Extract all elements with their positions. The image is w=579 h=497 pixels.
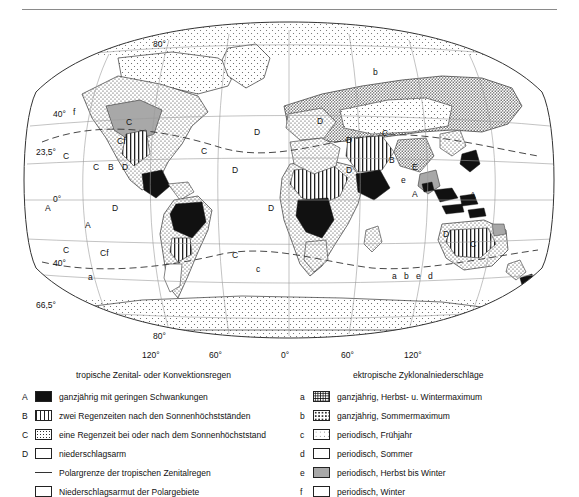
zone-letter: A xyxy=(85,220,91,230)
legend-swatch-solid-black xyxy=(35,391,52,402)
caption-right: ektropische Zyklonalniederschläge xyxy=(353,370,483,380)
legend-item-polar-dry: Niederschlagsarmut der Polargebiete xyxy=(22,486,199,497)
legend-key-letter: b xyxy=(300,411,313,421)
legend-label: periodisch, Frühjahr xyxy=(337,430,412,440)
zone-letter: b xyxy=(404,271,409,281)
zone-letter: B xyxy=(389,155,395,165)
map-svg xyxy=(22,14,557,344)
legend-swatch-fine-dots xyxy=(35,429,52,440)
legend-swatch-blank2 xyxy=(313,448,330,459)
zone-letter: D xyxy=(346,165,352,175)
legend-key-letter: e xyxy=(300,468,313,478)
legend-swatch-vertical-lines xyxy=(35,410,52,421)
zone-letter: A xyxy=(412,189,418,199)
zone-letter: C xyxy=(63,245,69,255)
legend-label: niederschlagsarm xyxy=(59,449,126,459)
graticule-label: 80° xyxy=(153,331,166,341)
zone-letter: D xyxy=(254,127,260,137)
legend-label: periodisch, Herbst bis Winter xyxy=(337,468,446,478)
legend-label: periodisch, Winter xyxy=(337,487,405,497)
zone-letter: a xyxy=(392,271,397,281)
zone-letter: a xyxy=(88,272,93,282)
graticule-label: 80° xyxy=(153,39,166,49)
legend-key-letter: a xyxy=(300,392,313,402)
zone-letter: B xyxy=(108,162,114,172)
legend-item-c2: c periodisch, Frühjahr xyxy=(300,429,412,440)
legend-item-a: A ganzjährig mit geringen Schwankungen xyxy=(22,391,208,402)
zone-letter: C xyxy=(63,151,69,161)
zone-letter: D xyxy=(346,135,352,145)
zone-letter: Cf xyxy=(117,136,126,146)
legend-item-polar-boundary: Polargrenze der tropischen Zenitalregen xyxy=(22,467,211,478)
legend-item-d: D niederschlagsarm xyxy=(22,448,126,459)
graticule-label: 60° xyxy=(341,350,354,360)
graticule-label: 0° xyxy=(53,194,61,204)
graticule-label: 66,5° xyxy=(36,300,56,310)
legend-item-a2: a ganzjährig, Herbst- u. Wintermaximum xyxy=(300,391,482,402)
legend-key-letter: D xyxy=(22,449,35,459)
graticule-label: 40° xyxy=(53,109,66,119)
legend-swatch-light-dots xyxy=(313,429,330,440)
legend-label: periodisch, Sommer xyxy=(337,449,413,459)
legend-swatch-dashed-line xyxy=(35,467,52,478)
graticule-label: 0° xyxy=(281,350,289,360)
zone-letter: D xyxy=(443,229,449,239)
legend-item-d2: d periodisch, Sommer xyxy=(300,448,413,459)
zone-letter: e xyxy=(416,271,421,281)
legend-key-letter: c xyxy=(300,430,313,440)
zone-letter: D xyxy=(317,116,323,126)
legend-item-f2: f periodisch, Winter xyxy=(300,486,405,497)
zone-letter: b xyxy=(373,67,378,77)
legend-key-letter: d xyxy=(300,449,313,459)
legend-key-letter: B xyxy=(22,411,35,421)
graticule-label: 40° xyxy=(53,258,66,268)
legend-label: ganzjährig, Sommermaximum xyxy=(337,411,450,421)
zone-letter: C xyxy=(93,162,99,172)
zone-letter: f xyxy=(73,107,75,117)
legend-label: eine Regenzeit bei oder nach dem Sonnenh… xyxy=(59,430,266,440)
legend-swatch-dense-black-dots xyxy=(313,391,330,402)
zone-letter: A xyxy=(45,203,51,213)
zone-letter: e xyxy=(401,175,406,185)
legend-item-e2: e periodisch, Herbst bis Winter xyxy=(300,467,446,478)
world-map: 80° 40° 23,5° 0° 40° 66,5° 80° C f C Cf … xyxy=(22,14,557,344)
graticule-label: 120° xyxy=(142,350,160,360)
legend-key-letter: f xyxy=(300,487,313,497)
zone-letter: C xyxy=(232,250,238,260)
legend-item-b: B zwei Regenzeiten nach den Sonnenhöchst… xyxy=(22,410,250,421)
zone-letter: C xyxy=(201,146,207,156)
legend-item-b2: b ganzjährig, Sommermaximum xyxy=(300,410,450,421)
zone-letter: A xyxy=(470,190,476,200)
zone-letter: C xyxy=(470,239,476,249)
legend-key-letter: C xyxy=(22,430,35,440)
legend-key-letter: A xyxy=(22,392,35,402)
graticule-label: 120° xyxy=(404,350,422,360)
zone-letter: D xyxy=(268,203,274,213)
legend-label: ganzjährig mit geringen Schwankungen xyxy=(59,392,208,402)
graticule-label: 23,5° xyxy=(36,147,56,157)
top-rule xyxy=(22,9,557,10)
legend-swatch-sparse-dots xyxy=(35,486,52,497)
zone-letter: d xyxy=(428,271,433,281)
zone-letter: C xyxy=(382,128,388,138)
zone-letter: Cf xyxy=(100,248,109,258)
legend-swatch-gray-fill xyxy=(313,467,330,478)
zone-letter: c xyxy=(256,264,260,274)
caption-left: tropische Zenital- oder Konvektionsregen xyxy=(76,370,231,380)
legend-item-c: C eine Regenzeit bei oder nach dem Sonne… xyxy=(22,429,266,440)
legend-swatch-medium-dots xyxy=(313,410,330,421)
zone-letter: C xyxy=(126,117,132,127)
legend-label: Polargrenze der tropischen Zenitalregen xyxy=(59,468,211,478)
zone-letter: D xyxy=(112,203,118,213)
legend-label: ganzjährig, Herbst- u. Wintermaximum xyxy=(337,392,482,402)
zone-letter: D xyxy=(232,165,238,175)
zone-letter: D xyxy=(122,162,128,172)
legend-swatch-blank xyxy=(35,448,52,459)
zone-letter: E xyxy=(412,162,418,172)
legend-swatch-white-outline xyxy=(313,486,330,497)
legend-label: Niederschlagsarmut der Polargebiete xyxy=(59,487,199,497)
legend-label: zwei Regenzeiten nach den Sonnenhöchstst… xyxy=(59,411,250,421)
graticule-label: 60° xyxy=(209,350,222,360)
